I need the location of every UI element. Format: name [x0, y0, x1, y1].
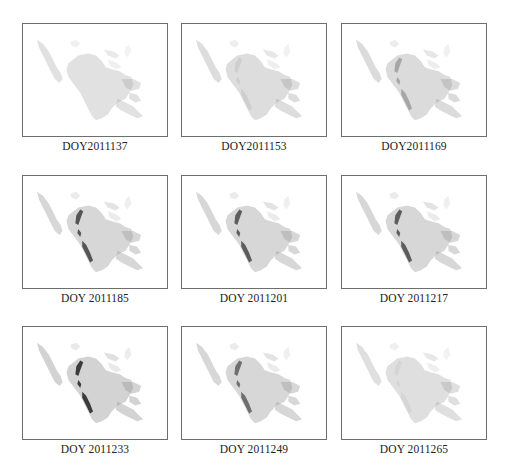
panel-caption: DOY 2011217 — [341, 292, 487, 304]
panel-caption: DOY2011137 — [22, 140, 168, 152]
panel-caption: DOY 2011233 — [22, 443, 168, 455]
map-image — [23, 24, 167, 136]
map-image — [342, 327, 486, 439]
panel-caption: DOY 2011201 — [181, 292, 327, 304]
panel-caption: DOY2011153 — [181, 140, 327, 152]
map-panel-9 — [341, 326, 487, 440]
map-image — [182, 327, 326, 439]
map-image — [182, 24, 326, 136]
panel-caption: DOY2011169 — [341, 140, 487, 152]
map-image — [23, 327, 167, 439]
panel-caption: DOY 2011185 — [22, 292, 168, 304]
map-panel-6 — [341, 175, 487, 289]
map-panel-1 — [22, 23, 168, 137]
map-image — [342, 24, 486, 136]
map-image — [342, 176, 486, 288]
panel-caption: DOY 2011265 — [341, 443, 487, 455]
panel-caption: DOY 2011249 — [181, 443, 327, 455]
map-panel-2 — [181, 23, 327, 137]
map-panel-3 — [341, 23, 487, 137]
map-image — [182, 176, 326, 288]
map-image — [23, 176, 167, 288]
map-panel-4 — [22, 175, 168, 289]
map-panel-8 — [181, 326, 327, 440]
map-panel-7 — [22, 326, 168, 440]
map-panel-5 — [181, 175, 327, 289]
